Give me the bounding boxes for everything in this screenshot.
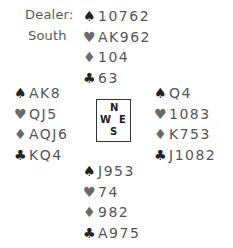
club-icon: ♣ — [83, 68, 98, 89]
north-spades-row: ♠10762 — [83, 6, 151, 27]
south-diamonds-row: ♦982 — [83, 202, 140, 223]
diamond-icon: ♦ — [83, 202, 98, 223]
north-hearts-row: ♥AK962 — [83, 27, 151, 48]
compass-north: N — [110, 102, 118, 113]
south-clubs-row: ♣A975 — [83, 223, 140, 244]
diamond-icon: ♦ — [83, 47, 98, 68]
spade-icon: ♠ — [83, 161, 98, 182]
compass-east: E — [119, 114, 126, 125]
diamond-icon: ♦ — [154, 124, 169, 145]
south-clubs: A975 — [98, 225, 140, 241]
east-diamonds-row: ♦K753 — [154, 124, 216, 145]
heart-icon: ♥ — [83, 27, 98, 48]
west-hearts: QJ5 — [29, 106, 58, 122]
west-spades: AK8 — [29, 85, 61, 101]
dealer-value: South — [28, 28, 67, 43]
east-hearts: 1083 — [169, 106, 211, 122]
east-spades: Q4 — [169, 85, 192, 101]
south-hearts: 74 — [98, 184, 119, 200]
north-diamonds: 104 — [98, 49, 129, 65]
south-hand: ♠J953 ♥74 ♦982 ♣A975 — [83, 161, 140, 243]
north-diamonds-row: ♦104 — [83, 47, 151, 68]
north-hand: ♠10762 ♥AK962 ♦104 ♣63 — [83, 6, 151, 88]
north-spades: 10762 — [98, 8, 150, 24]
west-diamonds: AQJ6 — [29, 126, 68, 142]
west-diamonds-row: ♦AQJ6 — [14, 124, 68, 145]
south-spades: J953 — [98, 163, 135, 179]
dealer-label: Dealer: — [25, 7, 73, 22]
east-diamonds: K753 — [169, 126, 211, 142]
east-clubs: J1082 — [169, 147, 216, 163]
heart-icon: ♥ — [83, 182, 98, 203]
east-hearts-row: ♥1083 — [154, 104, 216, 125]
west-hand: ♠AK8 ♥QJ5 ♦AQJ6 ♣KQ4 — [14, 83, 68, 165]
west-clubs-row: ♣KQ4 — [14, 145, 68, 166]
club-icon: ♣ — [154, 145, 169, 166]
spade-icon: ♠ — [83, 6, 98, 27]
west-spades-row: ♠AK8 — [14, 83, 68, 104]
north-clubs-row: ♣63 — [83, 68, 151, 89]
south-hearts-row: ♥74 — [83, 182, 140, 203]
diamond-icon: ♦ — [14, 124, 29, 145]
north-clubs: 63 — [98, 70, 119, 86]
east-spades-row: ♠Q4 — [154, 83, 216, 104]
west-hearts-row: ♥QJ5 — [14, 104, 68, 125]
north-hearts: AK962 — [98, 29, 151, 45]
compass-south: S — [110, 126, 117, 137]
club-icon: ♣ — [83, 223, 98, 244]
south-diamonds: 982 — [98, 204, 129, 220]
spade-icon: ♠ — [154, 83, 169, 104]
east-clubs-row: ♣J1082 — [154, 145, 216, 166]
east-hand: ♠Q4 ♥1083 ♦K753 ♣J1082 — [154, 83, 216, 165]
club-icon: ♣ — [14, 145, 29, 166]
compass-box: N W E S — [96, 99, 131, 142]
heart-icon: ♥ — [154, 104, 169, 125]
west-clubs: KQ4 — [29, 147, 63, 163]
heart-icon: ♥ — [14, 104, 29, 125]
south-spades-row: ♠J953 — [83, 161, 140, 182]
compass-west: W — [100, 114, 111, 125]
spade-icon: ♠ — [14, 83, 29, 104]
